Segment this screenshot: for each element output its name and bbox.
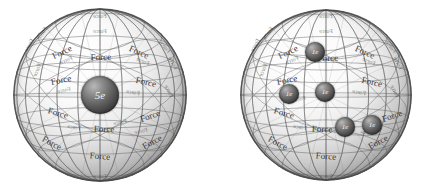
- electron-charge: 1e: [305, 42, 325, 62]
- nucleus-charge: 5e: [81, 76, 119, 114]
- figure-canvas: ForceForceForceForceForceForceForceForce…: [0, 0, 426, 190]
- electron-charge: 1e: [335, 117, 355, 137]
- electron-charge: 1e: [315, 82, 335, 102]
- electron-charge: 1e: [279, 84, 299, 104]
- electron-charge: 1e: [362, 115, 382, 135]
